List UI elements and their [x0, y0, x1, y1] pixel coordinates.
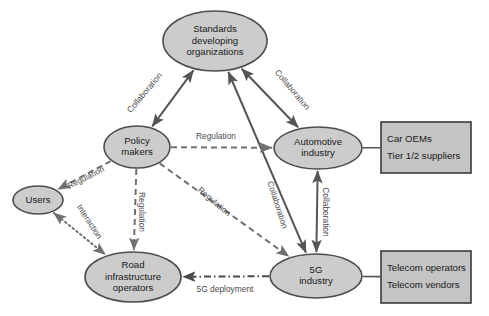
node-shape-car_box — [381, 122, 471, 173]
node-policy[interactable]: Policymakers — [104, 126, 170, 168]
node-label-automotive: Automotive — [294, 136, 342, 147]
node-road[interactable]: Roadinfrastructureoperators — [85, 252, 181, 302]
node-label-automotive: industry — [301, 147, 335, 158]
node-label-policy: Policy — [124, 135, 150, 146]
edge-label-policy-automotive: Regulation — [196, 131, 236, 141]
diagram-canvas: StandardsdevelopingorganizationsPolicyma… — [0, 0, 489, 316]
node-label-sdo: organizations — [186, 46, 243, 57]
edge-label-automotive-fiveg: Collaboration — [321, 187, 331, 237]
node-label-sdo: developing — [192, 35, 238, 46]
node-label-telecom_box: Telecom vendors — [387, 279, 460, 290]
node-users[interactable]: Users — [13, 186, 63, 214]
edge-label-policy-users: Regulation — [66, 164, 107, 191]
node-fiveg[interactable]: 5Gindustry — [270, 254, 362, 298]
node-label-car_box: Tier 1/2 suppliers — [387, 150, 460, 161]
ecosystem-diagram: StandardsdevelopingorganizationsPolicyma… — [0, 0, 489, 316]
node-automotive[interactable]: Automotiveindustry — [274, 127, 362, 169]
edge-label-fiveg-road: 5G deployment — [197, 284, 254, 294]
node-sdo[interactable]: Standardsdevelopingorganizations — [163, 11, 267, 71]
edge-label-policy-sdo: Collaboration — [125, 70, 165, 114]
edge-automotive-fiveg — [316, 171, 317, 252]
node-label-road: Road — [122, 259, 145, 270]
edge-label-policy-road: Regulation — [137, 192, 147, 232]
node-label-road: operators — [113, 282, 154, 293]
node-shape-telecom_box — [381, 251, 471, 303]
node-label-road: infrastructure — [105, 271, 161, 282]
node-label-car_box: Car OEMs — [387, 133, 432, 144]
edge-label-policy-fiveg: Regulation — [196, 185, 233, 219]
edge-policy-automotive — [171, 147, 272, 148]
node-telecom_box[interactable]: Telecom operatorsTelecom vendors — [381, 251, 471, 303]
node-label-policy: makers — [121, 146, 153, 157]
node-car_box[interactable]: Car OEMsTier 1/2 suppliers — [381, 122, 471, 173]
node-layer: StandardsdevelopingorganizationsPolicyma… — [13, 11, 471, 303]
edge-policy-road — [134, 169, 136, 250]
node-label-fiveg: industry — [299, 275, 333, 286]
node-label-sdo: Standards — [193, 23, 237, 34]
node-label-telecom_box: Telecom operators — [387, 262, 466, 273]
node-label-fiveg: 5G — [310, 264, 323, 275]
node-label-users: Users — [25, 194, 50, 205]
edge-label-sdo-automotive: Collaboration — [273, 67, 313, 111]
edge-label-users-road: Interaction — [75, 202, 105, 241]
